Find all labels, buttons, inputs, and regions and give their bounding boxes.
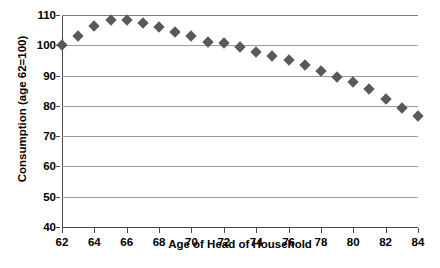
y-tick-mark-60	[56, 166, 60, 167]
data-point	[73, 30, 84, 41]
gridline-90	[62, 76, 418, 77]
x-tick-mark-62	[62, 228, 63, 233]
gridline-60	[62, 166, 418, 167]
x-tick-mark-64	[94, 228, 95, 233]
x-tick-mark-76	[289, 228, 290, 233]
y-tick-label-110: 110	[12, 9, 56, 21]
data-point	[251, 46, 262, 57]
x-tick-mark-68	[159, 228, 160, 233]
data-point	[267, 50, 278, 61]
y-tick-mark-40	[56, 227, 60, 228]
data-point	[186, 30, 197, 41]
x-axis-title: Age of Head of Household	[62, 238, 418, 250]
data-point	[105, 14, 116, 25]
x-tick-mark-72	[224, 228, 225, 233]
y-axis-tick-labels: 405060708090100110	[8, 15, 56, 227]
y-tick-mark-50	[56, 197, 60, 198]
y-tick-label-80: 80	[12, 100, 56, 112]
data-point	[153, 22, 164, 33]
data-point	[331, 71, 342, 82]
data-point	[396, 102, 407, 113]
x-tick-mark-74	[256, 228, 257, 233]
data-point	[56, 40, 67, 51]
data-point	[299, 59, 310, 70]
gridline-80	[62, 106, 418, 107]
y-tick-label-100: 100	[12, 39, 56, 51]
y-tick-mark-70	[56, 136, 60, 137]
y-tick-mark-90	[56, 76, 60, 77]
y-tick-label-90: 90	[12, 70, 56, 82]
y-tick-label-60: 60	[12, 160, 56, 172]
data-point	[348, 77, 359, 88]
y-tick-label-70: 70	[12, 130, 56, 142]
y-tick-mark-80	[56, 106, 60, 107]
data-point	[218, 38, 229, 49]
gridline-70	[62, 136, 418, 137]
data-point	[364, 83, 375, 94]
y-tick-label-50: 50	[12, 191, 56, 203]
data-point	[412, 111, 423, 122]
y-tick-label-40: 40	[12, 221, 56, 233]
gridline-110	[62, 15, 418, 16]
data-point	[234, 42, 245, 53]
x-axis-tick-marks	[62, 228, 418, 234]
data-point	[283, 54, 294, 65]
plot-area	[62, 15, 418, 227]
x-tick-mark-84	[418, 228, 419, 233]
y-tick-mark-110	[56, 15, 60, 16]
x-tick-mark-66	[127, 228, 128, 233]
data-point	[137, 18, 148, 29]
x-tick-mark-78	[321, 228, 322, 233]
data-point	[170, 26, 181, 37]
data-point	[380, 94, 391, 105]
data-point	[89, 20, 100, 31]
gridline-50	[62, 197, 418, 198]
x-tick-mark-80	[353, 228, 354, 233]
x-tick-mark-82	[386, 228, 387, 233]
x-tick-mark-70	[191, 228, 192, 233]
chart-figure: Consumption (age 62=100) 405060708090100…	[0, 0, 440, 268]
